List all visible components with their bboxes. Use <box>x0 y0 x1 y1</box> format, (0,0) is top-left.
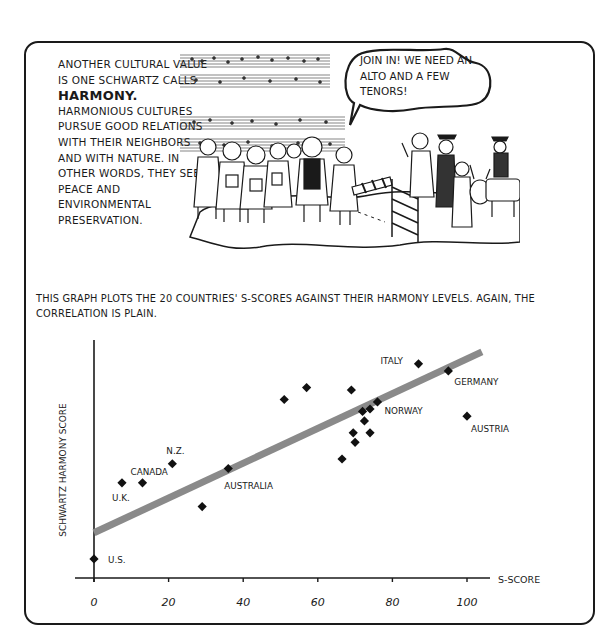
comic-panel: Another cultural value is one Schwartz c… <box>24 41 595 625</box>
data-point-diamond <box>117 478 126 487</box>
y-axis-label: SCHWARTZ HARMONY SCORE <box>58 403 68 537</box>
point-label: N.Z. <box>166 446 184 456</box>
data-point-diamond <box>302 383 311 392</box>
point-label: GERMANY <box>454 377 499 387</box>
data-point-diamond <box>280 395 289 404</box>
trendline <box>94 352 482 533</box>
data-point-diamond <box>89 554 98 563</box>
point-label: U.K. <box>112 493 130 503</box>
data-point-diamond <box>168 459 177 468</box>
trendline-bar <box>94 352 482 533</box>
data-point-diamond <box>414 359 423 368</box>
point-label: AUSTRALIA <box>224 481 273 491</box>
data-point-diamond <box>347 385 356 394</box>
x-tick-label: 60 <box>311 596 325 609</box>
data-point-diamond <box>349 428 358 437</box>
x-tick-label: 40 <box>236 596 250 609</box>
scatter-chart: 020406080100S-SCORESCHWARTZ HARMONY SCOR… <box>0 0 613 644</box>
x-tick-label: 100 <box>457 596 478 609</box>
data-point-diamond <box>198 502 207 511</box>
data-point-diamond <box>337 454 346 463</box>
data-points <box>89 359 471 563</box>
point-label: U.S. <box>108 555 126 565</box>
x-axis-label: S-SCORE <box>498 574 540 585</box>
data-point-diamond <box>462 412 471 421</box>
data-point-diamond <box>360 416 369 425</box>
point-label: CANADA <box>130 467 167 477</box>
x-tick-label: 20 <box>162 596 176 609</box>
data-point-diamond <box>365 428 374 437</box>
data-point-diamond <box>138 478 147 487</box>
point-label: AUSTRIA <box>471 424 509 434</box>
data-point-diamond <box>351 438 360 447</box>
x-tick-label: 0 <box>91 596 98 609</box>
x-tick-label: 80 <box>385 596 399 609</box>
point-label: NORWAY <box>384 406 423 416</box>
point-label: ITALY <box>381 356 404 366</box>
